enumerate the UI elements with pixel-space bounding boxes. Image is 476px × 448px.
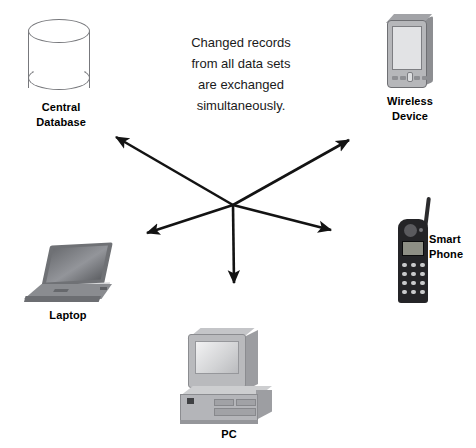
node-label-laptop: Laptop bbox=[18, 308, 118, 323]
arrow-to-pc bbox=[233, 205, 234, 283]
arrow-to-wireless-device bbox=[233, 140, 349, 205]
pda-button bbox=[422, 76, 427, 80]
laptop-computer-icon bbox=[24, 244, 116, 304]
phone-key bbox=[411, 263, 416, 267]
phone-earpiece bbox=[404, 224, 417, 237]
node-label-pc: PC bbox=[179, 427, 279, 442]
laptop-trackpad bbox=[53, 289, 69, 292]
tower-case-base bbox=[180, 420, 258, 424]
desktop-computer-icon bbox=[176, 328, 280, 426]
pda-device-icon bbox=[385, 14, 437, 90]
phone-key bbox=[411, 281, 416, 285]
phone-screen bbox=[402, 241, 424, 256]
phone-key bbox=[420, 263, 425, 267]
pda-button bbox=[400, 76, 406, 80]
phone-key bbox=[402, 263, 407, 267]
arrow-to-central-database bbox=[116, 137, 233, 205]
arrow-to-laptop bbox=[147, 205, 233, 233]
pda-center-button bbox=[407, 72, 413, 82]
drive-bay bbox=[236, 399, 256, 406]
phone-key bbox=[420, 281, 425, 285]
phone-key bbox=[402, 281, 407, 285]
database-cylinder-icon bbox=[27, 18, 95, 98]
cylinder-top-ellipse bbox=[28, 19, 90, 43]
phone-key bbox=[402, 272, 407, 276]
arrow-to-smart-phone bbox=[233, 205, 331, 230]
phone-indicator-dot bbox=[419, 228, 423, 232]
monitor-screen bbox=[195, 341, 239, 374]
laptop-latch bbox=[100, 287, 107, 290]
node-label-wireless-device: Wireless Device bbox=[360, 94, 460, 124]
drive-bay bbox=[214, 408, 256, 416]
node-label-central-database: Central Database bbox=[11, 100, 111, 130]
pda-button bbox=[392, 76, 398, 80]
cylinder-bottom-ellipse bbox=[28, 66, 90, 90]
drive-bay bbox=[214, 399, 234, 406]
power-button bbox=[187, 398, 194, 404]
phone-keypad bbox=[402, 263, 425, 299]
phone-key bbox=[411, 290, 416, 294]
node-label-smart-phone: Smart Phone bbox=[429, 232, 475, 262]
network-topology-diagram: Changed records from all data sets are e… bbox=[0, 0, 476, 448]
phone-key bbox=[420, 290, 425, 294]
pda-screen bbox=[392, 26, 422, 70]
center-note-text: Changed records from all data sets are e… bbox=[158, 32, 324, 116]
tower-case-side-face bbox=[256, 390, 272, 420]
pda-button bbox=[414, 76, 420, 80]
laptop-base-front-edge bbox=[24, 296, 101, 302]
phone-key bbox=[402, 290, 407, 294]
phone-key bbox=[420, 272, 425, 276]
phone-key bbox=[411, 272, 416, 276]
laptop-screen bbox=[46, 246, 108, 283]
